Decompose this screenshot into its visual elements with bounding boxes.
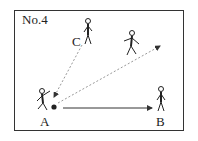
- player-c-figure-icon: [84, 19, 92, 45]
- player-a-label: A: [40, 114, 49, 130]
- player-c-label: C: [72, 34, 81, 50]
- pass-c-to-a-arrow: [54, 45, 82, 97]
- runner-figure-icon: [124, 31, 139, 56]
- drill-diagram: [0, 0, 198, 141]
- player-a-figure-icon: [37, 89, 50, 111]
- through-pass-arrow: [58, 46, 160, 103]
- player-b-label: B: [156, 114, 165, 130]
- ball-icon: [51, 104, 56, 109]
- player-b-figure-icon: [157, 87, 165, 112]
